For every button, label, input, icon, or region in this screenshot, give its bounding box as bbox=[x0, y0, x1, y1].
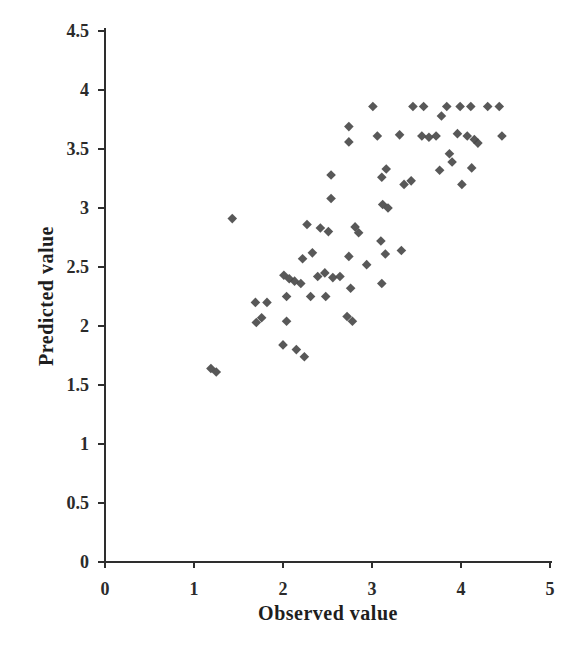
data-point-marker bbox=[344, 137, 354, 147]
x-tick-label: 4 bbox=[457, 579, 466, 599]
data-point-marker bbox=[424, 132, 434, 142]
scatter-chart: 00.511.522.533.544.5012345 Observed valu… bbox=[0, 0, 582, 646]
tick-labels: 00.511.522.533.544.5012345 bbox=[67, 21, 555, 599]
data-point-marker bbox=[328, 273, 338, 283]
data-point-marker bbox=[326, 170, 336, 180]
data-point-marker bbox=[467, 163, 477, 173]
y-tick-label: 0.5 bbox=[67, 493, 90, 513]
scatter-plot-figure: 00.511.522.533.544.5012345 Observed valu… bbox=[0, 0, 582, 646]
data-point-marker bbox=[251, 298, 261, 308]
data-point-marker bbox=[442, 102, 452, 112]
y-tick-label: 3 bbox=[80, 198, 89, 218]
data-point-marker bbox=[282, 292, 292, 302]
y-tick-label: 2 bbox=[80, 316, 89, 336]
data-point-marker bbox=[377, 173, 387, 183]
x-tick-label: 2 bbox=[279, 579, 288, 599]
data-point-marker bbox=[324, 227, 334, 237]
y-tick-label: 4 bbox=[80, 80, 89, 100]
data-point-marker bbox=[447, 157, 457, 167]
data-point-marker bbox=[408, 102, 418, 112]
data-point-marker bbox=[302, 220, 312, 230]
data-point-marker bbox=[453, 129, 463, 139]
data-point-marker bbox=[435, 165, 445, 175]
y-axis-title: Predicted value bbox=[35, 226, 57, 366]
data-point-marker bbox=[282, 316, 292, 326]
data-point-marker bbox=[368, 102, 378, 112]
data-point-marker bbox=[417, 131, 427, 141]
data-point-marker bbox=[455, 102, 465, 112]
y-tick-label: 4.5 bbox=[67, 21, 90, 41]
y-tick-label: 3.5 bbox=[67, 139, 90, 159]
data-point-marker bbox=[344, 252, 354, 262]
data-point-marker bbox=[227, 214, 237, 224]
data-point-marker bbox=[381, 164, 391, 174]
data-point-marker bbox=[395, 130, 405, 140]
data-point-marker bbox=[483, 102, 493, 112]
data-point-marker bbox=[381, 249, 391, 259]
data-point-marker bbox=[278, 340, 288, 350]
x-tick-label: 3 bbox=[368, 579, 377, 599]
y-tick-label: 1 bbox=[80, 434, 89, 454]
data-point-marker bbox=[300, 352, 310, 362]
data-point-marker bbox=[321, 292, 331, 302]
data-point-marker bbox=[397, 246, 407, 256]
data-point-marker bbox=[494, 102, 504, 112]
data-point-marker bbox=[308, 248, 318, 258]
x-tick-label: 5 bbox=[546, 579, 555, 599]
data-point-marker bbox=[344, 122, 354, 132]
data-point-marker bbox=[262, 298, 272, 308]
data-point-marker bbox=[497, 131, 507, 141]
x-axis-title: Observed value bbox=[258, 602, 398, 624]
data-point-marker bbox=[306, 292, 316, 302]
data-point-marker bbox=[437, 111, 447, 121]
data-point-marker bbox=[373, 131, 383, 141]
x-tick-label: 1 bbox=[190, 579, 199, 599]
data-point-marker bbox=[326, 194, 336, 204]
data-points bbox=[206, 102, 507, 377]
data-point-marker bbox=[376, 236, 386, 246]
data-point-marker bbox=[316, 223, 326, 233]
data-point-marker bbox=[457, 180, 467, 190]
data-point-marker bbox=[419, 102, 429, 112]
data-point-marker bbox=[362, 260, 372, 270]
y-tick-label: 2.5 bbox=[67, 257, 90, 277]
y-tick-label: 1.5 bbox=[67, 375, 90, 395]
data-point-marker bbox=[431, 131, 441, 141]
data-point-marker bbox=[346, 283, 356, 293]
x-tick-label: 0 bbox=[101, 579, 110, 599]
y-tick-label: 0 bbox=[80, 552, 89, 572]
data-point-marker bbox=[335, 272, 345, 282]
data-point-marker bbox=[466, 102, 476, 112]
data-point-marker bbox=[298, 254, 308, 264]
data-point-marker bbox=[377, 279, 387, 289]
data-point-marker bbox=[445, 149, 455, 159]
data-point-marker bbox=[292, 345, 302, 355]
